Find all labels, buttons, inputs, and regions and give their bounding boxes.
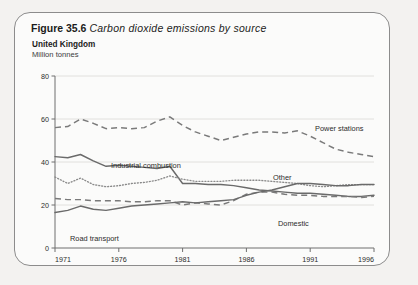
series-label-power-stations: Power stations <box>315 124 364 133</box>
series-label-other: Other <box>273 173 292 182</box>
x-tick-label: 1971 <box>55 255 71 264</box>
series-label-road-transport: Road transport <box>70 234 119 243</box>
x-tick-label: 1976 <box>111 255 127 264</box>
x-tick-label: 1986 <box>238 255 254 264</box>
x-tick-label: 1996 <box>358 255 374 264</box>
series-label-industrial-combustion: Industrial combustion <box>111 161 181 170</box>
chart-plot-area: 020406080 197119761981198619911996 Power… <box>15 13 391 267</box>
line-chart-svg: 020406080 197119761981198619911996 Power… <box>15 13 391 267</box>
chart-x-axis: 197119761981198619911996 <box>55 248 374 264</box>
x-tick-label: 1991 <box>302 255 318 264</box>
y-tick-label: 80 <box>41 72 49 81</box>
series-line-power-stations <box>55 117 374 157</box>
series-line-road-transport <box>55 184 374 213</box>
chart-y-axis: 020406080 <box>41 72 55 253</box>
series-line-industrial-combustion <box>55 154 374 196</box>
figure-card: Figure 35.6 Carbon dioxide emissions by … <box>14 12 390 266</box>
series-label-domestic: Domestic <box>278 219 309 228</box>
y-tick-label: 60 <box>41 115 49 124</box>
x-tick-label: 1981 <box>175 255 191 264</box>
y-tick-label: 0 <box>45 244 49 253</box>
y-tick-label: 40 <box>41 158 49 167</box>
y-tick-label: 20 <box>41 201 49 210</box>
chart-annotations: Power stationsIndustrial combustionOther… <box>70 124 364 243</box>
